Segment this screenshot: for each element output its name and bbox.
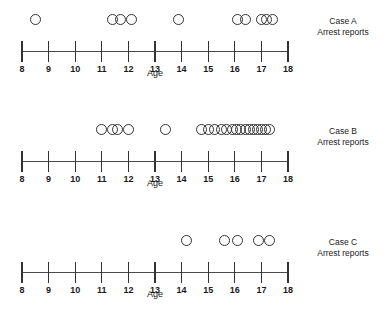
data-point [96, 124, 107, 135]
axis-case-c: 89101112131415161718 [0, 259, 300, 289]
axis-title-case-b: Age [22, 178, 288, 188]
plot-area-case-c: 89101112131415161718 Age [0, 221, 300, 331]
axis-tick [154, 41, 155, 62]
axis-tick [208, 41, 209, 62]
panel-case-a: 89101112131415161718 Age Case A Arrest r… [0, 0, 386, 110]
axis-tick [234, 262, 235, 283]
axis-tick [48, 262, 49, 283]
plot-area-case-a: 89101112131415161718 Age [0, 0, 300, 110]
dots-case-c [0, 221, 300, 261]
data-point [112, 124, 123, 135]
axis-tick [287, 41, 288, 62]
data-point [160, 124, 171, 135]
case-measure-c: Arrest reports [300, 248, 386, 259]
axis-case-a: 89101112131415161718 [0, 38, 300, 68]
case-name-b: Case B [300, 126, 386, 137]
axis-tick [287, 151, 288, 172]
data-point [219, 235, 230, 246]
case-measure-b: Arrest reports [300, 137, 386, 148]
axis-tick [208, 262, 209, 283]
axis-tick [101, 262, 102, 283]
axis-tick [75, 151, 76, 172]
axis-tick [261, 262, 262, 283]
data-point [30, 14, 41, 25]
axis-tick [128, 41, 129, 62]
axis-tick [261, 151, 262, 172]
axis-tick [154, 262, 155, 283]
case-label-a: Case A Arrest reports [300, 16, 386, 38]
data-point [232, 235, 243, 246]
case-name-c: Case C [300, 237, 386, 248]
axis-tick [21, 151, 22, 172]
data-point [181, 235, 192, 246]
dot-plot-figure: 89101112131415161718 Age Case A Arrest r… [0, 0, 386, 332]
axis-tick [21, 41, 22, 62]
panel-case-b: 89101112131415161718 Age Case B Arrest r… [0, 110, 386, 220]
data-point [115, 14, 126, 25]
axis-tick [48, 151, 49, 172]
axis-tick [128, 262, 129, 283]
case-label-c: Case C Arrest reports [300, 237, 386, 259]
plot-area-case-b: 89101112131415161718 Age [0, 110, 300, 220]
case-measure-a: Arrest reports [300, 27, 386, 38]
axis-tick [101, 41, 102, 62]
axis-tick [181, 41, 182, 62]
axis-title-case-a: Age [22, 68, 288, 78]
axis-tick [181, 262, 182, 283]
axis-tick [234, 151, 235, 172]
axis-tick [234, 41, 235, 62]
data-point [264, 124, 275, 135]
data-point [126, 14, 137, 25]
dots-case-a [0, 0, 300, 40]
axis-tick [128, 151, 129, 172]
axis-tick [208, 151, 209, 172]
axis-tick [181, 151, 182, 172]
case-name-a: Case A [300, 16, 386, 27]
axis-tick [48, 41, 49, 62]
axis-tick [21, 262, 22, 283]
data-point [123, 124, 134, 135]
axis-tick [75, 41, 76, 62]
axis-case-b: 89101112131415161718 [0, 148, 300, 178]
data-point [240, 14, 251, 25]
axis-tick [75, 262, 76, 283]
data-point [264, 235, 275, 246]
data-point [253, 235, 264, 246]
data-point [173, 14, 184, 25]
panel-case-c: 89101112131415161718 Age Case C Arrest r… [0, 221, 386, 331]
data-point [267, 14, 278, 25]
axis-tick [261, 41, 262, 62]
axis-tick [101, 151, 102, 172]
case-label-b: Case B Arrest reports [300, 126, 386, 148]
axis-tick [154, 151, 155, 172]
axis-tick [287, 262, 288, 283]
dots-case-b [0, 110, 300, 150]
axis-title-case-c: Age [22, 289, 288, 299]
